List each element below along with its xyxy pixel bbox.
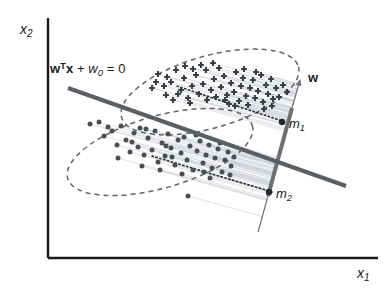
data-point	[149, 85, 155, 91]
data-point	[226, 150, 231, 155]
mean-point-m1	[279, 119, 285, 125]
data-point	[150, 148, 155, 153]
data-point	[160, 141, 165, 146]
mean-point-m2	[266, 189, 272, 195]
data-point	[163, 154, 168, 159]
data-point	[202, 170, 207, 175]
data-point	[188, 144, 193, 149]
data-point	[166, 132, 171, 137]
data-point	[102, 134, 107, 139]
data-point	[195, 149, 200, 154]
data-point	[173, 67, 179, 73]
data-point	[164, 144, 169, 149]
data-point	[164, 74, 170, 80]
data-point	[119, 124, 124, 129]
data-point	[169, 146, 174, 151]
data-point	[228, 173, 233, 178]
w-vector-label: w	[308, 71, 318, 84]
data-point	[88, 122, 93, 127]
data-point	[179, 151, 184, 156]
data-point	[210, 60, 216, 66]
data-point	[155, 71, 161, 77]
mean2-label: m2	[276, 187, 292, 203]
data-point	[136, 145, 141, 150]
data-point	[128, 150, 133, 155]
data-point	[97, 120, 102, 125]
data-point	[115, 143, 120, 148]
data-point	[190, 66, 196, 72]
fisher-discriminant-figure: x2 x1 wTx + w0 = 0 w m1 m2	[0, 0, 391, 296]
data-point	[153, 79, 159, 85]
data-point	[216, 65, 222, 71]
data-point	[156, 160, 161, 165]
data-point	[198, 139, 203, 144]
data-point	[181, 75, 187, 81]
data-point	[193, 72, 199, 78]
data-point	[180, 172, 185, 177]
data-point	[204, 153, 209, 158]
data-point	[158, 168, 163, 173]
data-point	[186, 194, 191, 199]
data-point	[229, 164, 234, 169]
series-class-2	[88, 120, 237, 199]
data-point	[220, 170, 225, 175]
data-point	[185, 158, 190, 163]
data-point	[182, 63, 188, 69]
x-axis-label: x1	[357, 266, 370, 283]
data-point	[130, 140, 135, 145]
data-point	[140, 164, 145, 169]
data-point	[191, 168, 196, 173]
data-point	[146, 136, 151, 141]
data-point	[170, 155, 175, 160]
data-point	[232, 155, 237, 160]
data-point	[182, 135, 187, 140]
data-point	[207, 143, 212, 148]
data-point	[153, 129, 158, 134]
projection-axis-tail	[258, 196, 268, 232]
decision-boundary-equation: wTx + w0 = 0	[50, 62, 126, 78]
data-point	[208, 176, 213, 181]
projection-ray	[188, 196, 262, 217]
data-point	[163, 92, 169, 98]
data-point	[223, 158, 228, 163]
data-point	[216, 147, 221, 152]
data-point	[106, 125, 111, 130]
data-point	[124, 138, 129, 143]
data-point	[142, 153, 147, 158]
data-point	[168, 79, 174, 85]
mean1-label: m1	[289, 117, 305, 133]
data-point	[176, 138, 181, 143]
data-point	[144, 127, 149, 132]
data-point	[116, 156, 121, 161]
data-point	[161, 83, 167, 89]
projection-ray	[193, 69, 295, 97]
data-point	[213, 156, 218, 161]
data-point	[173, 163, 178, 168]
y-axis-label: x2	[20, 22, 33, 39]
plot-canvas	[0, 0, 391, 296]
data-point	[210, 166, 215, 171]
data-point	[198, 62, 204, 68]
data-point	[132, 131, 137, 136]
data-point	[170, 97, 176, 103]
data-point	[201, 161, 206, 166]
data-point	[110, 129, 115, 134]
data-point	[138, 126, 143, 131]
